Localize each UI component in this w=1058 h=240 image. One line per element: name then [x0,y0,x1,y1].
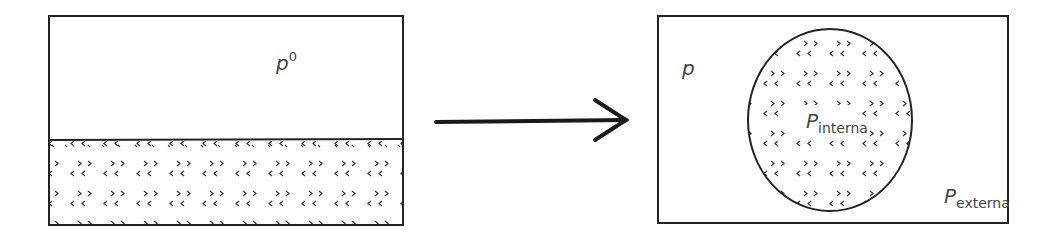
transform-arrow-icon [436,100,626,140]
right-panel: p Pinterna Pexterna [658,16,1010,223]
left-panel: p0 [49,16,403,225]
label-p-externa: Pexterna [944,184,1010,211]
label-p0: p0 [275,49,297,75]
left-liquid-fill [50,141,402,224]
label-p-outer: p [681,56,695,80]
liquid-surface-line [49,139,403,140]
diagram-canvas: p0 p Pinterna Pexterna [0,0,1058,240]
